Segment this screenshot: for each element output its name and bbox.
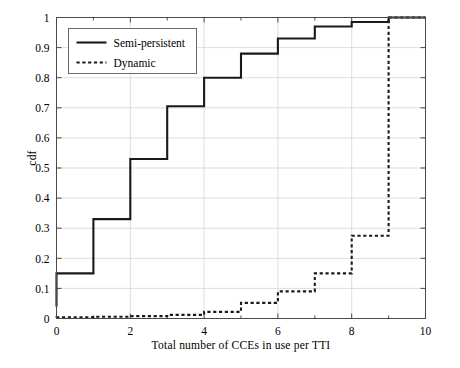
y-tick-label: 1 [44,12,50,24]
x-tick-label: 0 [54,325,60,337]
x-axis-label: Total number of CCEs in use per TTI [56,339,426,351]
figure: 00.10.20.30.40.50.60.70.80.91 0246810 Se… [0,0,460,368]
y-tick-label: 0.3 [35,222,50,234]
cdf-plot: 00.10.20.30.40.50.60.70.80.91 0246810 Se… [0,0,460,368]
x-tick-label: 10 [420,325,432,337]
y-tick-label: 0.7 [35,102,50,114]
x-tick-label: 6 [275,325,281,337]
legend: Semi-persistentDynamic [69,29,197,74]
y-tick-label: 0.4 [35,192,50,204]
x-tick-label: 2 [127,325,133,337]
x-tick-label: 4 [201,325,207,337]
y-axis-label: cdf [26,128,38,188]
legend-label-2: Dynamic [114,57,156,70]
legend-label-1: Semi-persistent [114,37,186,50]
y-tick-label: 0.9 [35,42,50,54]
y-tick-label: 0.8 [35,72,50,84]
y-tick-label: 0.2 [35,253,50,265]
x-tick-labels: 0246810 [54,325,432,337]
y-tick-label: 0 [44,313,50,325]
x-tick-label: 8 [349,325,355,337]
y-tick-label: 0.1 [35,283,50,295]
